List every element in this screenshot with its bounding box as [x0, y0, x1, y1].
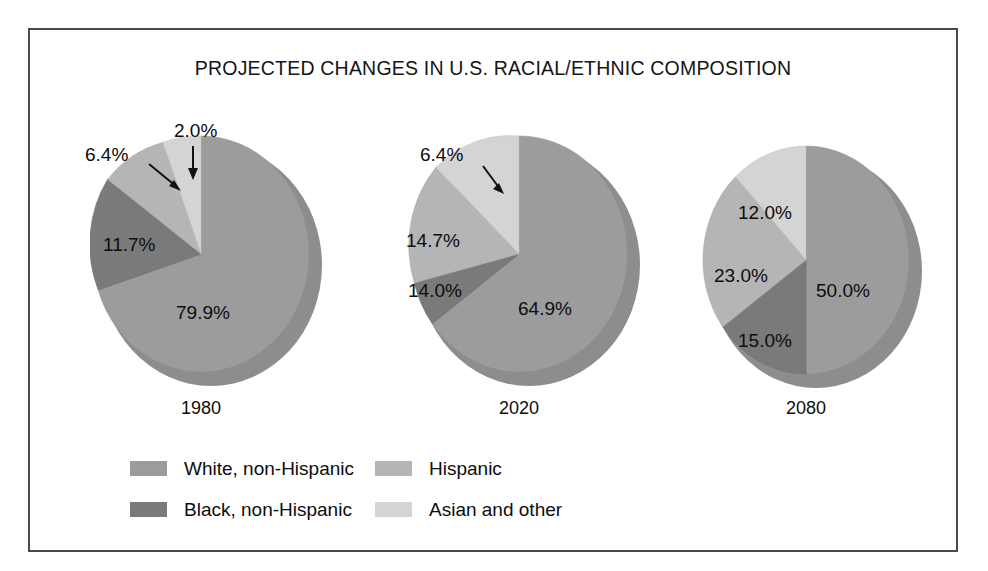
pie-chart-1980: 6.4% 2.0% 11.7% 79.9% 1980: [90, 130, 340, 420]
slice-label-hispanic-2080: 23.0%: [714, 265, 768, 287]
legend-label-white-non-hispanic: White, non-Hispanic: [184, 458, 354, 480]
legend-row-1: White, non-Hispanic Hispanic: [130, 448, 690, 489]
chart-title: PROJECTED CHANGES IN U.S. RACIAL/ETHNIC …: [30, 57, 956, 80]
callout-label-hispanic-1980: 6.4%: [85, 144, 128, 166]
slice-label-white-1980: 79.9%: [176, 302, 230, 324]
legend-item-hispanic[interactable]: Hispanic: [375, 458, 502, 480]
pie-year-label-2080: 2080: [700, 398, 912, 419]
slice-label-white-2080: 50.0%: [816, 280, 870, 302]
legend-label-hispanic: Hispanic: [429, 458, 502, 480]
slice-label-asian-2080: 12.0%: [738, 202, 792, 224]
legend-label-asian-and-other: Asian and other: [429, 499, 562, 521]
legend-item-asian-and-other[interactable]: Asian and other: [375, 499, 562, 521]
legend-swatch-black-non-hispanic: [130, 502, 167, 517]
legend-item-white-non-hispanic[interactable]: White, non-Hispanic: [130, 458, 375, 480]
chart-frame: PROJECTED CHANGES IN U.S. RACIAL/ETHNIC …: [28, 28, 958, 552]
pie-slices-2020: [408, 130, 648, 390]
slice-label-black-1980: 11.7%: [103, 234, 155, 256]
callout-arrow-asian-1980: [184, 146, 204, 182]
legend-swatch-white-non-hispanic: [130, 461, 167, 476]
slice-label-black-2080: 15.0%: [738, 330, 792, 352]
callout-label-asian-1980: 2.0%: [174, 120, 217, 142]
pie-chart-2080: 12.0% 23.0% 50.0% 15.0% 2080: [700, 140, 950, 420]
pie-slice-white-2080[interactable]: [806, 146, 909, 374]
slice-label-hispanic-2020: 14.7%: [406, 230, 460, 252]
pie-year-label-1980: 1980: [90, 398, 312, 419]
pie-slices-1980: [90, 130, 330, 390]
pie-year-label-2020: 2020: [408, 398, 630, 419]
legend-row-2: Black, non-Hispanic Asian and other: [130, 489, 690, 530]
legend-swatch-asian-and-other: [375, 502, 412, 517]
chart-legend: White, non-Hispanic Hispanic Black, non-…: [130, 448, 690, 530]
callout-arrow-asian-2020: [481, 164, 515, 198]
slice-label-black-2020: 14.0%: [408, 280, 462, 302]
pie-chart-2020: 6.4% 14.7% 14.0% 64.9% 2020: [408, 130, 658, 420]
legend-swatch-hispanic: [375, 461, 412, 476]
slice-label-white-2020: 64.9%: [518, 298, 572, 320]
callout-label-asian-2020: 6.4%: [420, 144, 463, 166]
legend-label-black-non-hispanic: Black, non-Hispanic: [184, 499, 352, 521]
legend-item-black-non-hispanic[interactable]: Black, non-Hispanic: [130, 499, 375, 521]
callout-arrow-hispanic-1980: [147, 160, 189, 196]
